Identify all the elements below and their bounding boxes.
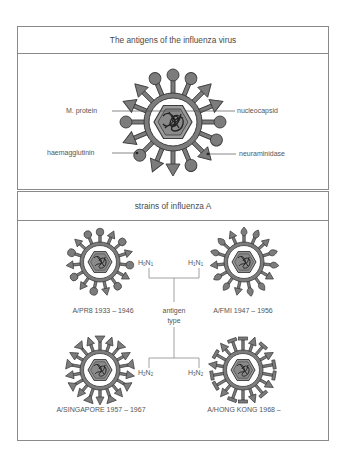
main-virus-icon [120, 69, 226, 176]
virus-fmi-icon [210, 227, 279, 297]
label-nucleocapsid: nucleocapsid [237, 107, 278, 114]
antigen-type-label-line2: type [167, 317, 180, 324]
label-neuraminidase: neuraminidase [239, 150, 285, 157]
antigen-type-label-line1: antigen [163, 307, 186, 314]
antigen-h0n1: H0N1 [138, 259, 153, 268]
antigen-h3n2: H3N2 [188, 369, 203, 378]
strain-name-pr8: A/PR8 1933 – 1946 [72, 307, 133, 314]
strain-name-singapore: A/SINGAPORE 1957 – 1967 [56, 406, 145, 413]
antigen-h1n1: H1N1 [188, 259, 203, 268]
virus-singapore-icon [65, 336, 135, 405]
strain-name-hongkong: A/HONG KONG 1968 – [207, 406, 281, 413]
virus-pr8-icon [66, 228, 134, 296]
label-m-protein: M. protein [66, 107, 97, 114]
virus-hongkong-icon [208, 336, 276, 405]
label-haemagglutinin: haemagglutinin [47, 149, 94, 156]
virus-diagram-graphics [0, 0, 347, 458]
strain-name-fmi: A/FMI 1947 – 1956 [213, 307, 273, 314]
antigen-h2n2: H2N2 [138, 369, 153, 378]
